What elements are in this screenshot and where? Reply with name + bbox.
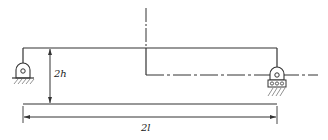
beam-diagram: 2h 2l xyxy=(0,0,328,140)
right-roller-support xyxy=(268,67,286,96)
height-label: 2h xyxy=(53,68,67,79)
height-dimension xyxy=(48,49,52,103)
length-label: 2l xyxy=(140,122,151,133)
left-pinned-support xyxy=(12,63,34,84)
